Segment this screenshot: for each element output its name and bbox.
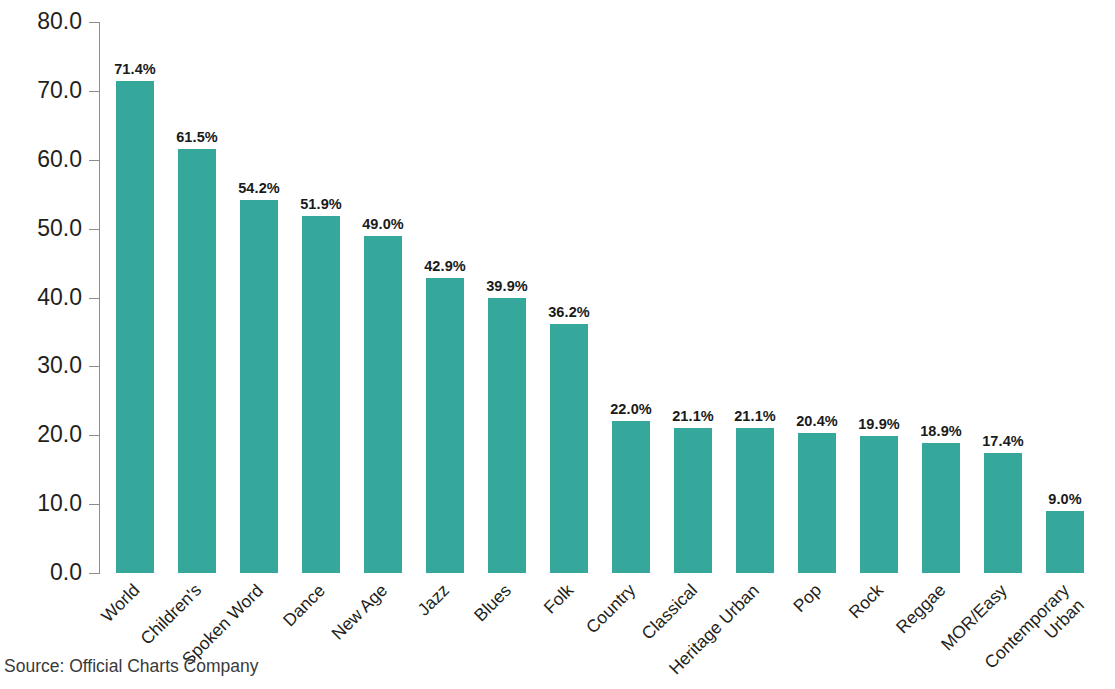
y-axis-tick-label: 60.0 <box>0 148 82 171</box>
bar-column: 39.9% <box>488 22 526 573</box>
y-axis-tick <box>89 573 99 574</box>
bar-column: 19.9% <box>860 22 898 573</box>
bar-value-label: 61.5% <box>176 129 218 145</box>
y-axis-tick <box>89 160 99 161</box>
y-axis-tick-label: 0.0 <box>0 561 82 584</box>
bar-value-label: 39.9% <box>486 278 528 294</box>
x-axis-label-text: Folk <box>540 580 578 618</box>
y-axis-tick-label: 20.0 <box>0 423 82 446</box>
bar-value-label: 18.9% <box>920 423 962 439</box>
bar <box>240 200 278 573</box>
x-axis-label-text: New Age <box>328 580 392 644</box>
y-axis-tick-label: 10.0 <box>0 492 82 515</box>
bar <box>550 324 588 573</box>
bar-value-label: 17.4% <box>982 433 1024 449</box>
y-axis-tick-label: 70.0 <box>0 79 82 102</box>
x-axis-label-text: Jazz <box>414 580 454 620</box>
bar <box>426 278 464 573</box>
y-axis-tick <box>89 91 99 92</box>
bar-column: 20.4% <box>798 22 836 573</box>
y-axis-tick <box>89 22 99 23</box>
bar-column: 71.4% <box>116 22 154 573</box>
bar-value-label: 49.0% <box>362 216 404 232</box>
bar-column: 22.0% <box>612 22 650 573</box>
bar <box>178 149 216 573</box>
bar-column: 17.4% <box>984 22 1022 573</box>
y-axis-tick <box>89 435 99 436</box>
bar-value-label: 51.9% <box>300 196 342 212</box>
bar-column: 21.1% <box>736 22 774 573</box>
x-axis-label-text: Blues <box>470 580 516 626</box>
y-axis-tick <box>89 504 99 505</box>
bar-value-label: 21.1% <box>672 408 714 424</box>
bar <box>860 436 898 573</box>
bar-column: 9.0% <box>1046 22 1084 573</box>
y-axis-tick-label: 50.0 <box>0 217 82 240</box>
bar <box>116 81 154 573</box>
x-axis-label-text: Dance <box>279 580 330 631</box>
bar-chart: 0.010.020.030.040.050.060.070.080.0 71.4… <box>0 0 1115 689</box>
bar-column: 49.0% <box>364 22 402 573</box>
y-axis-tick-label: 30.0 <box>0 354 82 377</box>
bar-column: 42.9% <box>426 22 464 573</box>
bar <box>612 421 650 573</box>
bar-value-label: 71.4% <box>114 61 156 77</box>
x-axis-label-text: Pop <box>789 580 826 617</box>
plot-area: 71.4%61.5%54.2%51.9%49.0%42.9%39.9%36.2%… <box>99 22 1099 573</box>
bar-value-label: 20.4% <box>796 413 838 429</box>
bar-column: 61.5% <box>178 22 216 573</box>
y-axis-tick-label: 40.0 <box>0 286 82 309</box>
bar-column: 18.9% <box>922 22 960 573</box>
bar <box>984 453 1022 573</box>
bar-value-label: 9.0% <box>1048 491 1081 507</box>
y-axis-tick-label: 80.0 <box>0 10 82 33</box>
bar <box>488 298 526 573</box>
bar <box>922 443 960 573</box>
x-axis-label-text: Country <box>582 580 640 638</box>
x-axis-label-text: Reggae <box>892 580 950 638</box>
bar-column: 36.2% <box>550 22 588 573</box>
y-axis-tick <box>89 229 99 230</box>
bar-value-label: 19.9% <box>858 416 900 432</box>
bar-value-label: 21.1% <box>734 408 776 424</box>
bar-column: 21.1% <box>674 22 712 573</box>
bar-column: 51.9% <box>302 22 340 573</box>
bar-value-label: 54.2% <box>238 180 280 196</box>
y-axis-tick <box>89 366 99 367</box>
x-axis-label-text: Classical <box>638 580 702 644</box>
bar <box>364 236 402 573</box>
bar-column: 54.2% <box>240 22 278 573</box>
bar-value-label: 22.0% <box>610 401 652 417</box>
bar-value-label: 42.9% <box>424 258 466 274</box>
source-note: Source: Official Charts Company <box>4 656 259 677</box>
x-axis-label-text: Rock <box>845 580 888 623</box>
x-axis-label-text: World <box>97 580 144 627</box>
y-axis-tick <box>89 298 99 299</box>
bar-value-label: 36.2% <box>548 304 590 320</box>
